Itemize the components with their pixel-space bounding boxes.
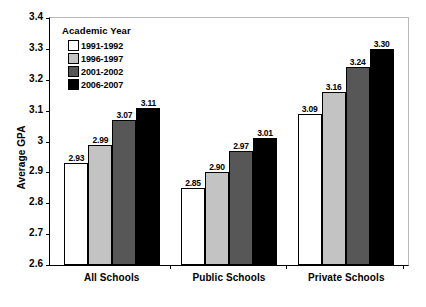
bar[interactable]: 3.24: [346, 67, 370, 265]
bar[interactable]: 3.30: [370, 49, 394, 265]
x-axis-category-labels: All SchoolsPublic SchoolsPrivate Schools: [49, 272, 409, 283]
legend-item-label: 1991-1992: [81, 41, 123, 51]
legend-item[interactable]: 1991-1992: [68, 40, 131, 51]
bar-chart: Average GPA 3.43.33.23.132.92.82.72.6 2.…: [0, 0, 426, 307]
y-axis-tick-label: 2.9: [29, 165, 43, 176]
bar-slot: 3.11: [136, 18, 160, 265]
bar-slot: 3.01: [253, 18, 277, 265]
bar-slot: 2.90: [205, 18, 229, 265]
bar[interactable]: 3.11: [136, 108, 160, 265]
legend-item[interactable]: 1996-1997: [68, 53, 131, 64]
y-axis-tick-label: 3: [37, 135, 43, 146]
y-axis-tick-label: 3.1: [29, 104, 43, 115]
bar-value-label: 2.93: [68, 153, 84, 163]
bar-value-label: 2.90: [209, 162, 225, 172]
legend-title: Academic Year: [62, 25, 131, 36]
bar-value-label: 3.09: [302, 104, 318, 114]
bar-value-label: 2.97: [233, 141, 249, 151]
y-axis-tick-label: 3.4: [29, 11, 43, 22]
y-axis-tick-label: 3.2: [29, 73, 43, 84]
y-axis-tick-label: 2.6: [29, 258, 43, 269]
bar[interactable]: 2.97: [229, 151, 253, 265]
legend-swatch-icon: [68, 40, 79, 51]
bar-value-label: 3.01: [257, 128, 273, 138]
bar-value-label: 3.11: [141, 98, 156, 108]
legend: Academic Year 1991-19921996-19972001-200…: [62, 25, 131, 92]
bar[interactable]: 3.01: [253, 138, 277, 265]
bar[interactable]: 2.93: [64, 163, 88, 265]
y-axis-tick-label: 2.8: [29, 196, 43, 207]
bar[interactable]: 3.07: [112, 120, 136, 265]
bar-value-label: 2.99: [92, 135, 108, 145]
legend-item[interactable]: 2006-2007: [68, 79, 131, 90]
bar-group: 2.852.902.973.01: [171, 18, 288, 265]
y-axis-tick-label: 3.3: [29, 42, 43, 53]
legend-entries: 1991-19921996-19972001-20022006-2007: [62, 40, 131, 90]
bar-slot: 2.97: [229, 18, 253, 265]
legend-swatch-icon: [68, 79, 79, 90]
bar[interactable]: 2.90: [205, 172, 229, 265]
legend-item[interactable]: 2001-2002: [68, 66, 131, 77]
y-axis-tick-label: 2.7: [29, 227, 43, 238]
legend-swatch-icon: [68, 53, 79, 64]
x-axis-tick-mark: [403, 265, 404, 269]
x-axis-tick-mark: [286, 265, 287, 269]
bar[interactable]: 2.85: [181, 188, 205, 265]
legend-item-label: 2001-2002: [81, 67, 123, 77]
x-axis-category-label: Private Schools: [288, 272, 405, 283]
y-axis-title: Average GPA: [16, 93, 27, 223]
x-axis-tick-mark: [170, 265, 171, 269]
legend-item-label: 2006-2007: [81, 80, 123, 90]
bar[interactable]: 3.09: [298, 114, 322, 265]
bar-value-label: 3.07: [116, 110, 132, 120]
bar-slot: 3.09: [298, 18, 322, 265]
x-axis-category-label: All Schools: [53, 272, 170, 283]
legend-item-label: 1996-1997: [81, 54, 123, 64]
bar-slot: 2.85: [181, 18, 205, 265]
y-axis-tick-mark: [46, 265, 50, 266]
bar[interactable]: 3.16: [322, 92, 346, 265]
bar[interactable]: 2.99: [88, 145, 112, 265]
bar-value-label: 3.16: [326, 82, 342, 92]
bar-value-label: 2.85: [185, 178, 201, 188]
bar-slot: 3.30: [370, 18, 394, 265]
bar-group: 3.093.163.243.30: [287, 18, 404, 265]
x-axis-category-label: Public Schools: [170, 272, 287, 283]
bar-slot: 3.24: [346, 18, 370, 265]
bar-value-label: 3.24: [350, 57, 366, 67]
legend-swatch-icon: [68, 66, 79, 77]
bar-slot: 3.16: [322, 18, 346, 265]
bar-value-label: 3.30: [374, 39, 390, 49]
